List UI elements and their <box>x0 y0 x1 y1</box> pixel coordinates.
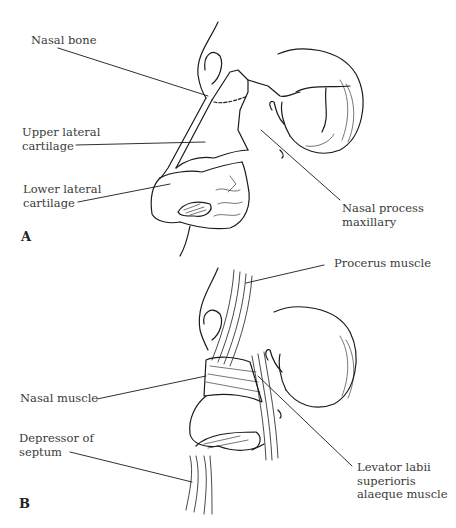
label-upper-lateral-cartilage: Upper lateral cartilage <box>22 126 100 153</box>
panel-letter-b: B <box>19 496 30 511</box>
profile-line-a <box>198 22 218 98</box>
leader-nasal-muscle <box>97 376 206 399</box>
leader-levator <box>258 376 352 466</box>
leader-nasal-bone <box>58 48 208 96</box>
panel-letter-a: A <box>21 229 31 244</box>
label-nasal-bone: Nasal bone <box>31 34 97 48</box>
label-levator-labii: Levator labii superioris alaeque muscle <box>357 461 448 502</box>
label-procerus-muscle: Procerus muscle <box>334 257 431 271</box>
label-nasal-process-maxillary: Nasal process maxillary <box>342 202 424 229</box>
label-lower-lateral-cartilage: Lower lateral cartilage <box>23 183 101 210</box>
label-nasal-muscle: Nasal muscle <box>20 392 98 406</box>
leader-procerus <box>246 265 324 283</box>
label-depressor-of-septum: Depressor of septum <box>19 432 94 459</box>
orbit-rim-a <box>205 53 222 84</box>
